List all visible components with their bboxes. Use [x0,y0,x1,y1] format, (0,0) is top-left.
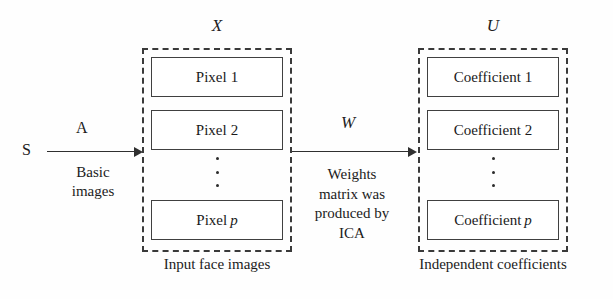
arrow-a-shaft [47,151,139,152]
weights-caption-line-2: matrix was [296,185,408,205]
basic-images-caption-line-1: Basic [38,163,148,182]
pixel-p-box: Pixel p [151,200,283,240]
pixel-2-name: Pixel [196,123,227,138]
arrow-w-shaft [292,151,415,152]
coefficient-1-name: Coefficient [454,70,521,85]
weights-caption-line-3: produced by [296,204,408,224]
coefficient-p-box: Coefficient p [427,200,559,240]
independent-coefficients-caption: Independent coefficients [408,256,578,273]
pixel-1-box: Pixel 1 [151,57,283,97]
output-group-symbol-u: U [473,16,513,36]
pixel-2-index: 2 [227,123,239,138]
ellipsis-dot [216,157,219,160]
pixel-2-box: Pixel 2 [151,110,283,150]
ica-block-diagram: S A Basic images X Pixel 1 Pixel 2 Pixel… [0,0,613,299]
coefficient-p-name: Coefficient [454,213,521,228]
ellipsis-dot [492,171,495,174]
weights-matrix-caption: Weights matrix was produced by ICA [296,165,408,243]
coefficient-2-name: Coefficient [454,123,521,138]
input-face-images-caption: Input face images [142,256,292,273]
input-group-symbol-x: X [197,16,237,36]
pixel-p-name: Pixel [196,213,227,228]
coefficient-1-index: 1 [521,70,533,85]
weights-caption-line-1: Weights [296,165,408,185]
mixing-matrix-label-a: A [76,119,88,137]
input-group-vertical-ellipsis-icon [207,157,227,187]
weights-matrix-symbol-w: W [328,113,368,133]
coefficient-1-box: Coefficient 1 [427,57,559,97]
source-signal-label: S [22,141,31,159]
ellipsis-dot [492,157,495,160]
ellipsis-dot [492,184,495,187]
ellipsis-dot [216,171,219,174]
basic-images-caption: Basic images [38,163,148,201]
pixel-1-index: 1 [227,70,239,85]
weights-caption-line-4: ICA [296,224,408,244]
basic-images-caption-line-2: images [38,182,148,201]
arrow-w-head-icon [408,147,417,157]
pixel-p-index: p [227,213,238,228]
output-group-vertical-ellipsis-icon [483,157,503,187]
coefficient-2-box: Coefficient 2 [427,110,559,150]
ellipsis-dot [216,184,219,187]
coefficient-2-index: 2 [521,123,533,138]
pixel-1-name: Pixel [196,70,227,85]
coefficient-p-index: p [521,213,532,228]
